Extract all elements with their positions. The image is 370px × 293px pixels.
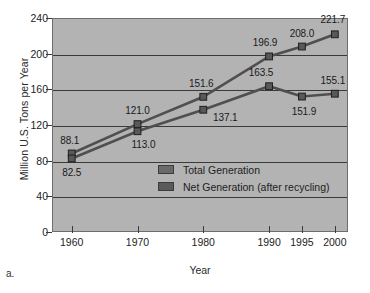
data-point-label: 155.1 <box>321 74 346 85</box>
data-point-marker <box>200 93 207 100</box>
x-axis-title: Year <box>52 264 348 276</box>
data-point-marker <box>68 155 75 162</box>
data-point-label: 113.0 <box>132 139 156 150</box>
data-point-label: 221.7 <box>321 14 346 25</box>
x-tick-label: 1960 <box>50 236 94 248</box>
data-point-label: 196.9 <box>253 37 278 48</box>
legend-item-total-generation: Total Generation <box>158 162 329 177</box>
data-point-marker <box>134 121 141 128</box>
data-point-label: 121.0 <box>125 105 150 116</box>
chart-figure: Million U.S. Tons per Year 0408012016020… <box>0 0 370 293</box>
y-tick-label: 160 <box>22 83 48 95</box>
data-point-marker <box>331 31 338 38</box>
legend-item-net-generation: Net Generation (after recycling) <box>158 179 329 194</box>
series-lines <box>52 18 348 232</box>
y-tick-mark <box>46 232 52 233</box>
data-point-marker <box>331 90 338 97</box>
y-tick-label: 200 <box>22 48 48 60</box>
legend-label-total-generation: Total Generation <box>183 164 260 176</box>
figure-caption: a. <box>6 268 14 279</box>
data-point-label: 208.0 <box>290 27 315 38</box>
legend-swatch-net-generation <box>158 182 174 191</box>
data-point-label: 88.1 <box>60 135 79 146</box>
data-point-label: 137.1 <box>213 111 238 122</box>
chart-legend: Total Generation Net Generation (after r… <box>158 162 329 196</box>
data-point-label: 163.5 <box>249 67 274 78</box>
y-tick-label: 0 <box>22 226 48 238</box>
data-point-marker <box>200 106 207 113</box>
data-point-marker <box>134 128 141 135</box>
x-tick-label: 1970 <box>116 236 160 248</box>
x-tick-label: 1980 <box>181 236 225 248</box>
data-point-marker <box>299 93 306 100</box>
data-point-label: 151.9 <box>292 105 317 116</box>
y-tick-label: 240 <box>22 12 48 24</box>
y-tick-label: 120 <box>22 119 48 131</box>
data-point-marker <box>299 43 306 50</box>
data-point-label: 151.6 <box>189 77 214 88</box>
data-point-label: 82.5 <box>62 167 81 178</box>
data-point-marker <box>266 53 273 60</box>
y-tick-label: 40 <box>22 190 48 202</box>
legend-label-net-generation: Net Generation (after recycling) <box>183 181 329 193</box>
legend-swatch-total-generation <box>158 165 174 174</box>
x-tick-label: 2000 <box>313 236 357 248</box>
data-point-marker <box>266 83 273 90</box>
y-tick-label: 80 <box>22 155 48 167</box>
